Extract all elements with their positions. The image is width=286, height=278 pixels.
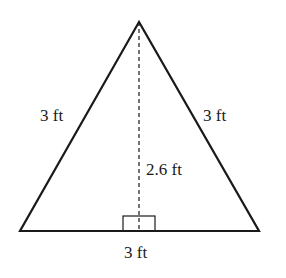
right-side-label: 3 ft xyxy=(203,106,226,125)
left-side-label: 3 ft xyxy=(40,106,63,125)
height-label: 2.6 ft xyxy=(146,160,182,179)
triangle-diagram: 3 ft 3 ft 2.6 ft 3 ft xyxy=(0,0,286,278)
base-label: 3 ft xyxy=(124,243,147,262)
